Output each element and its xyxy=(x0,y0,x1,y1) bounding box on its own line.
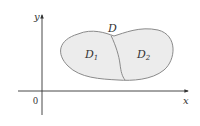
subregion-d2-subscript: 2 xyxy=(145,54,151,62)
region-label-d: D xyxy=(107,22,117,35)
region-d xyxy=(61,29,173,81)
y-axis-label: y xyxy=(33,11,40,22)
region-d-shape xyxy=(61,29,173,81)
origin-label: 0 xyxy=(33,95,38,106)
subregion-d2-letter: D xyxy=(136,48,146,61)
diagram-canvas: y x 0 D D1 D2 xyxy=(0,0,200,126)
x-axis-label: x xyxy=(183,95,189,106)
subregion-d1-letter: D xyxy=(84,48,94,61)
subregion-d1-subscript: 1 xyxy=(94,54,98,62)
